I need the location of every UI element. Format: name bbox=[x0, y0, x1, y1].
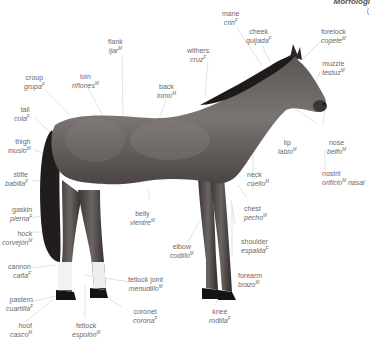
label-flank: flankijarM bbox=[108, 38, 123, 55]
label-muzzle: muzzletestuzM bbox=[322, 60, 344, 77]
label-thigh: thighmusloM bbox=[8, 138, 30, 155]
label-coronet: coronetcoronaF bbox=[133, 308, 157, 325]
label-stifle: stiflebabillaF bbox=[5, 171, 28, 188]
label-chest: chestpechoM bbox=[244, 205, 267, 222]
label-knee: kneerodillaF bbox=[209, 308, 230, 325]
label-forelock: forelockcopeteM bbox=[321, 28, 346, 45]
label-nose: nosebelfoM bbox=[327, 139, 346, 156]
label-hoof: hoofcascoM bbox=[10, 322, 32, 339]
label-shoulder: shoulderespaldaF bbox=[241, 238, 268, 255]
label-hock: hockcorvejónM bbox=[2, 230, 32, 247]
label-forearm: forearmbrazoM bbox=[238, 272, 262, 289]
label-gaskin: gaskinpiernaF bbox=[10, 206, 32, 223]
label-nostril: nostrilorificioM nasal bbox=[322, 170, 365, 187]
label-fetlock-joint: fetlock jointmenudilloM bbox=[128, 276, 163, 293]
label-tail: tailcolaF bbox=[14, 106, 30, 123]
label-elbow: elbowcodilloM bbox=[170, 243, 194, 260]
label-withers: witherscruzF bbox=[187, 47, 209, 64]
label-lip: liplabioM bbox=[278, 139, 297, 156]
label-cheek: cheekquijadaF bbox=[246, 28, 271, 45]
label-loin: loinriñonesM bbox=[72, 73, 99, 90]
label-fetlock: fetlockespolónM bbox=[72, 322, 100, 339]
label-croup: croupgrupaF bbox=[24, 74, 45, 91]
label-cannon: cannoncañaF bbox=[8, 263, 31, 280]
label-neck: neckcuelloM bbox=[247, 171, 269, 188]
label-back: backlomoM bbox=[157, 83, 176, 100]
label-mane: manecrinF bbox=[222, 10, 240, 27]
label-belly: bellyvientreM bbox=[130, 210, 155, 227]
label-pastern: pasterncuartillaF bbox=[6, 296, 33, 313]
